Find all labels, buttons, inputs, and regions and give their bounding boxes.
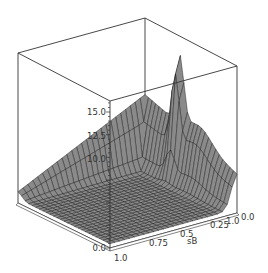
x-tick-1: 1.0 — [226, 216, 240, 226]
x-tick-0: 0.0 — [241, 212, 255, 222]
y-axis-title: sB — [187, 236, 197, 246]
z-tick-12-5: 12.5 — [87, 131, 106, 141]
y-tick-1: 1.0 — [114, 253, 128, 263]
y-tick-075: 0.75 — [149, 238, 168, 248]
surface-plot: 15.0 12.5 10.0 0.0 1.0 0.75 0.5 sB 0.25 … — [0, 0, 268, 273]
z-tick-0: 0.0 — [92, 243, 106, 253]
z-tick-10: 10.0 — [87, 154, 106, 164]
z-tick-15: 15.0 — [87, 107, 106, 117]
surface-mesh — [18, 56, 237, 244]
